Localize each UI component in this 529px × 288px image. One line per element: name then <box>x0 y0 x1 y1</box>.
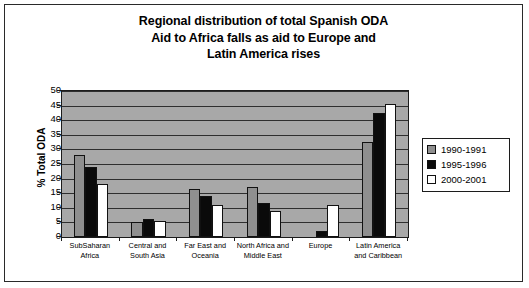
bar <box>247 187 259 237</box>
bar <box>270 211 282 237</box>
bar <box>97 184 109 237</box>
x-axis-category-label-line: South Asia <box>115 251 181 261</box>
bar <box>85 167 97 237</box>
legend-swatch-icon <box>427 145 436 154</box>
bar <box>373 113 385 237</box>
bar <box>131 222 143 237</box>
y-axis: % Total ODA 05101520253035404550 <box>23 90 61 240</box>
bar-group <box>293 91 351 237</box>
legend-swatch-icon <box>427 175 436 184</box>
chart-title: Regional distribution of total Spanish O… <box>5 13 522 63</box>
x-axis-category-label-line: Europe <box>288 241 354 251</box>
bar <box>362 142 374 237</box>
x-axis-category-label-line: North Africa and <box>230 241 296 251</box>
bar-group <box>177 91 235 237</box>
x-axis-category-label: North Africa andMiddle East <box>230 241 296 260</box>
bar <box>385 104 397 237</box>
legend-item-label: 1990-1991 <box>441 144 486 155</box>
x-axis-category-label: Latin Americaand Caribbean <box>345 241 411 260</box>
x-axis-category-label-line: Africa <box>57 251 123 261</box>
x-axis-category-label-line: Central and <box>115 241 181 251</box>
legend-item: 1995-1996 <box>427 157 506 172</box>
x-axis-category-label-line: Middle East <box>230 251 296 261</box>
bar-group <box>235 91 293 237</box>
bar-group <box>62 91 120 237</box>
bar <box>200 196 212 237</box>
bar-group <box>120 91 178 237</box>
x-axis-category-label-line: Oceania <box>172 251 238 261</box>
bar <box>327 205 339 237</box>
bar <box>212 205 224 237</box>
bar <box>154 221 166 237</box>
chart-title-line-3: Latin America rises <box>5 46 522 63</box>
bar <box>143 219 155 237</box>
legend-item: 1990-1991 <box>427 142 506 157</box>
x-axis-category-label-line: SubSaharan <box>57 241 123 251</box>
chart-title-line-1: Regional distribution of total Spanish O… <box>5 13 522 30</box>
x-axis-category-labels: SubSaharanAfricaCentral andSouth AsiaFar… <box>61 241 409 275</box>
legend-swatch-icon <box>427 160 436 169</box>
chart-frame: Regional distribution of total Spanish O… <box>4 4 523 282</box>
legend-item: 2000-2001 <box>427 172 506 187</box>
plot-area <box>61 90 409 238</box>
x-axis-category-label: Europe <box>288 241 354 251</box>
bar <box>74 155 86 237</box>
x-axis-category-label: Far East andOceania <box>172 241 238 260</box>
legend-item-label: 1995-1996 <box>441 159 486 170</box>
bar <box>258 203 270 237</box>
bar <box>316 231 328 237</box>
chart-title-line-2: Aid to Africa falls as aid to Europe and <box>5 30 522 47</box>
x-axis-category-label-line: Latin America <box>345 241 411 251</box>
chart-legend: 1990-19911995-19962000-2001 <box>422 138 510 192</box>
x-axis-category-label-line: Far East and <box>172 241 238 251</box>
x-axis-category-label-line: and Caribbean <box>345 251 411 261</box>
legend-item-label: 2000-2001 <box>441 174 486 185</box>
bar-group <box>350 91 408 237</box>
x-axis-category-label: SubSaharanAfrica <box>57 241 123 260</box>
x-axis-category-label: Central andSouth Asia <box>115 241 181 260</box>
bar <box>189 189 201 237</box>
